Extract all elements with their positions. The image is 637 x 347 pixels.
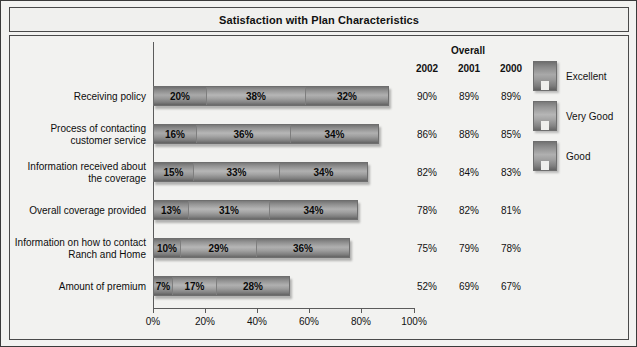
bar-group: 10% 29% 36% <box>153 238 350 260</box>
bar-segment-value: 16% <box>165 129 185 140</box>
category-label: Information received about the coverage <box>14 161 146 185</box>
category-label-line1: Amount of premium <box>59 281 146 292</box>
legend-item-verygood: Very Good <box>533 101 613 131</box>
table-row: Information on how to contact Ranch and … <box>10 230 630 268</box>
legend-item-good: Good <box>533 141 590 171</box>
stacked-bar: 16% 36% 34% <box>153 124 379 144</box>
x-axis-tick-label: 60% <box>289 316 329 327</box>
category-label-line2: customer service <box>70 135 146 146</box>
category-label-line2: the coverage <box>88 173 146 184</box>
stacked-bar: 7% 17% 28% <box>153 276 290 296</box>
x-axis-tick <box>205 308 206 313</box>
category-label-line1: Information on how to contact <box>15 237 146 248</box>
stacked-bar: 13% 31% 34% <box>153 200 358 220</box>
legend-swatch-excellent <box>533 61 557 91</box>
bar-segment-value: 17% <box>184 281 204 292</box>
bar-segment-value: 10% <box>157 243 177 254</box>
bar-segment-value: 32% <box>337 91 357 102</box>
table-row: Overall coverage provided 13% 31% 34% 78… <box>10 192 630 230</box>
bar-segment-value: 20% <box>170 91 190 102</box>
x-axis-tick-label: 0% <box>133 316 173 327</box>
overall-value-2001: 89% <box>451 91 487 102</box>
bar-segment-verygood: 17% <box>172 277 216 295</box>
x-axis-tick-label: 80% <box>341 316 381 327</box>
stacked-bar: 20% 38% 32% <box>153 86 389 106</box>
bar-segment-good: 36% <box>256 239 349 257</box>
category-label: Overall coverage provided <box>14 205 146 217</box>
bar-segment-value: 34% <box>313 167 333 178</box>
overall-value-2001: 69% <box>451 281 487 292</box>
category-label-line2: Ranch and Home <box>68 249 146 260</box>
bar-segment-value: 31% <box>219 205 239 216</box>
x-axis-tick <box>309 308 310 313</box>
category-label: Receiving policy <box>14 91 146 103</box>
bar-segment-value: 33% <box>226 167 246 178</box>
bar-segment-value: 34% <box>324 129 344 140</box>
bar-group: 16% 36% 34% <box>153 124 379 146</box>
overall-value-2001: 79% <box>451 243 487 254</box>
column-header-2000: 2000 <box>493 63 529 74</box>
stacked-bar: 10% 29% 36% <box>153 238 350 258</box>
overall-value-2000: 83% <box>493 167 529 178</box>
x-axis-tick <box>414 308 415 313</box>
bar-segment-verygood: 31% <box>188 201 269 219</box>
legend-swatch-good <box>533 141 557 171</box>
category-label-line1: Process of contacting <box>50 123 146 134</box>
bar-group: 20% 38% 32% <box>153 86 389 108</box>
legend-item-excellent: Excellent <box>533 61 607 91</box>
bar-segment-value: 15% <box>163 167 183 178</box>
category-label: Amount of premium <box>14 281 146 293</box>
bar-segment-verygood: 33% <box>193 163 279 181</box>
bar-segment-verygood: 29% <box>180 239 256 257</box>
overall-value-2001: 84% <box>451 167 487 178</box>
bar-segment-value: 36% <box>233 129 253 140</box>
bar-segment-value: 36% <box>293 243 313 254</box>
stacked-bar: 15% 33% 34% <box>153 162 368 182</box>
bar-group: 15% 33% 34% <box>153 162 368 184</box>
bar-segment-excellent: 7% <box>154 277 172 295</box>
legend-swatch-verygood <box>533 101 557 131</box>
overall-value-2000: 85% <box>493 129 529 140</box>
bar-segment-excellent: 15% <box>154 163 193 181</box>
bar-group: 13% 31% 34% <box>153 200 358 222</box>
overall-value-2002: 75% <box>409 243 445 254</box>
bar-segment-good: 34% <box>290 125 378 143</box>
category-label-line1: Receiving policy <box>74 91 146 102</box>
legend-label-excellent: Excellent <box>566 71 607 82</box>
bar-segment-value: 28% <box>243 281 263 292</box>
overall-value-2002: 78% <box>409 205 445 216</box>
bar-segment-excellent: 20% <box>154 87 206 105</box>
x-axis-tick-label: 20% <box>185 316 225 327</box>
x-axis-tick <box>257 308 258 313</box>
bar-segment-good: 34% <box>269 201 357 219</box>
bar-segment-value: 13% <box>161 205 181 216</box>
x-axis-tick-label: 100% <box>394 316 434 327</box>
x-axis-tick-label: 40% <box>237 316 277 327</box>
overall-value-2002: 52% <box>409 281 445 292</box>
bar-segment-excellent: 10% <box>154 239 180 257</box>
chart-title-bar: Satisfaction with Plan Characteristics <box>9 7 629 32</box>
category-label: Process of contacting customer service <box>14 123 146 147</box>
bar-segment-verygood: 36% <box>196 125 290 143</box>
overall-header-label: Overall <box>408 45 528 56</box>
bar-segment-value: 38% <box>246 91 266 102</box>
table-row: Amount of premium 7% 17% 28% 52% 69% 67% <box>10 268 630 306</box>
overall-value-2001: 88% <box>451 129 487 140</box>
overall-value-2002: 86% <box>409 129 445 140</box>
overall-value-2002: 90% <box>409 91 445 102</box>
overall-value-2000: 67% <box>493 281 529 292</box>
bar-segment-good: 32% <box>305 87 388 105</box>
column-header-2001: 2001 <box>451 63 487 74</box>
column-header-2002: 2002 <box>409 63 445 74</box>
chart-container: Satisfaction with Plan Characteristics O… <box>0 0 637 347</box>
overall-value-2000: 89% <box>493 91 529 102</box>
x-axis-line <box>153 308 415 309</box>
x-axis-tick <box>153 308 154 313</box>
bar-segment-value: 29% <box>208 243 228 254</box>
plot-area: Overall 2002 2001 2000 Receiving policy … <box>9 35 629 340</box>
bar-group: 7% 17% 28% <box>153 276 290 298</box>
x-axis-tick <box>361 308 362 313</box>
overall-value-2001: 82% <box>451 205 487 216</box>
legend-label-good: Good <box>566 151 590 162</box>
bar-segment-verygood: 38% <box>206 87 305 105</box>
